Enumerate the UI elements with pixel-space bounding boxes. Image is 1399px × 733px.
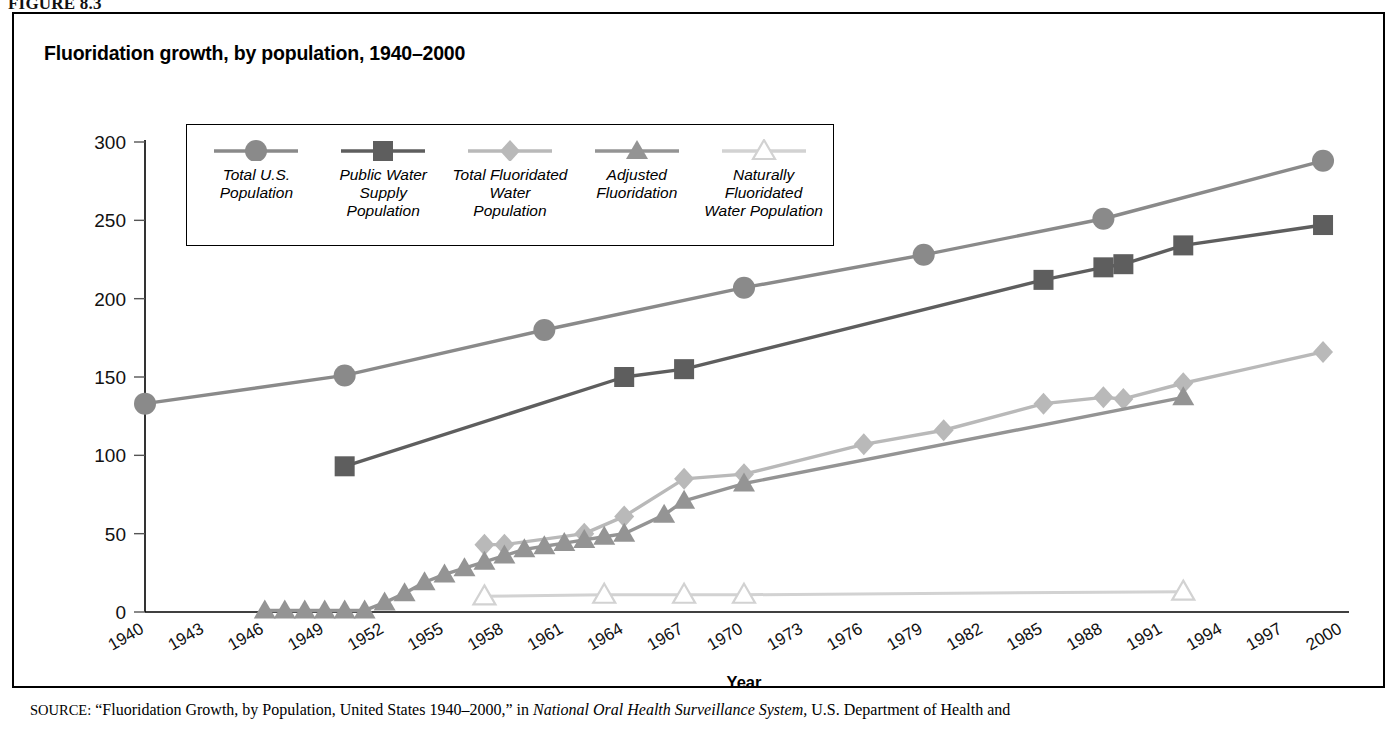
data-point-marker — [674, 359, 694, 379]
line-chart-plot: 0501001502002503001940194319461949195219… — [0, 0, 1399, 733]
source-tail: U.S. Department of Health and — [811, 701, 1010, 718]
data-point-marker — [500, 140, 520, 161]
x-axis-title: Year — [727, 673, 762, 691]
x-tick-label: 1973 — [764, 619, 806, 654]
source-in-word: in — [517, 701, 529, 718]
y-tick-label: 300 — [94, 132, 126, 153]
data-point-marker — [245, 140, 267, 161]
legend-item-label: Total U.S. Population — [220, 166, 293, 202]
x-tick-label: 1979 — [883, 619, 925, 654]
data-point-marker — [593, 584, 615, 603]
data-point-marker — [1092, 208, 1114, 230]
data-point-marker — [134, 393, 156, 415]
data-point-marker — [1093, 257, 1113, 277]
source-quote: “Fluoridation Growth, by Population, Uni… — [95, 701, 512, 718]
x-tick-label: 1964 — [584, 619, 626, 654]
series-triangle-open — [473, 581, 1194, 605]
series-line — [345, 225, 1323, 466]
data-point-marker — [1313, 215, 1333, 235]
source-note: SOURCE: “Fluoridation Growth, by Populat… — [30, 700, 1370, 720]
y-tick-label: 200 — [94, 289, 126, 310]
legend-item-label: Total Fluoridated Water Population — [453, 166, 568, 220]
legend-item-3[interactable]: Adjusted Fluoridation — [573, 139, 700, 202]
x-tick-label: 1955 — [404, 619, 446, 654]
legend-item-1[interactable]: Public Water Supply Population — [320, 139, 447, 220]
data-point-marker — [1113, 254, 1133, 274]
x-tick-label: 1988 — [1063, 619, 1105, 654]
data-point-marker — [934, 419, 954, 441]
x-tick-label: 1958 — [464, 619, 506, 654]
x-tick-label: 1940 — [105, 619, 147, 654]
legend-item-label: Naturally Fluoridated Water Population — [704, 166, 823, 220]
x-tick-label: 1949 — [284, 619, 326, 654]
x-tick-label: 1970 — [704, 619, 746, 654]
x-tick-label: 1952 — [344, 619, 386, 654]
legend-item-label: Adjusted Fluoridation — [596, 166, 677, 202]
x-tick-label: 1967 — [644, 619, 686, 654]
y-tick-label: 250 — [94, 210, 126, 231]
x-tick-label: 1976 — [824, 619, 866, 654]
data-point-marker — [913, 244, 935, 266]
y-tick-label: 150 — [94, 367, 126, 388]
series-line — [265, 397, 1183, 610]
data-point-marker — [1173, 235, 1193, 255]
legend-item-0[interactable]: Total U.S. Population — [193, 139, 320, 202]
legend-item-label: Public Water Supply Population — [339, 166, 427, 220]
y-tick-label: 0 — [115, 602, 126, 623]
diamond-icon — [464, 139, 556, 161]
x-tick-label: 1985 — [1003, 619, 1045, 654]
legend-item-2[interactable]: Total Fluoridated Water Population — [447, 139, 574, 220]
x-tick-label: 1982 — [943, 619, 985, 654]
y-tick-label: 50 — [105, 524, 126, 545]
data-point-marker — [394, 582, 416, 601]
figure-root: FIGURE 8.3 Fluoridation growth, by popul… — [0, 0, 1399, 733]
source-publication-title: National Oral Health Surveillance System… — [533, 701, 807, 718]
data-point-marker — [373, 141, 393, 161]
data-point-marker — [614, 367, 634, 387]
data-point-marker — [1034, 393, 1054, 415]
square-icon — [337, 139, 429, 161]
source-prefix: SOURCE: — [30, 702, 91, 718]
data-point-marker — [1313, 341, 1333, 363]
data-point-marker — [334, 364, 356, 386]
data-point-marker — [533, 319, 555, 341]
data-point-marker — [613, 523, 635, 542]
circle-icon — [210, 139, 302, 161]
series-square — [335, 215, 1333, 476]
x-tick-label: 1961 — [524, 619, 566, 654]
x-tick-label: 1991 — [1123, 619, 1165, 654]
x-tick-label: 2000 — [1303, 619, 1345, 654]
legend-item-4[interactable]: Naturally Fluoridated Water Population — [700, 139, 827, 220]
data-point-marker — [1312, 150, 1334, 172]
data-point-marker — [1172, 386, 1194, 405]
series-diamond — [474, 341, 1333, 556]
x-tick-label: 1997 — [1243, 619, 1285, 654]
data-point-marker — [733, 277, 755, 299]
data-point-marker — [374, 592, 396, 611]
series-triangle-filled — [254, 386, 1194, 618]
data-point-marker — [1172, 581, 1194, 600]
series-line — [484, 592, 1183, 597]
data-point-marker — [674, 468, 694, 490]
data-point-marker — [653, 504, 675, 523]
x-tick-label: 1994 — [1183, 619, 1225, 654]
data-point-marker — [854, 433, 874, 455]
triangle-open-icon — [718, 139, 810, 161]
data-point-marker — [335, 456, 355, 476]
data-point-marker — [1034, 270, 1054, 290]
data-point-marker — [1093, 386, 1113, 408]
y-tick-label: 100 — [94, 445, 126, 466]
x-tick-label: 1946 — [225, 619, 267, 654]
chart-legend: Total U.S. PopulationPublic Water Supply… — [186, 124, 834, 246]
x-tick-label: 1943 — [165, 619, 207, 654]
triangle-filled-icon — [591, 139, 683, 161]
